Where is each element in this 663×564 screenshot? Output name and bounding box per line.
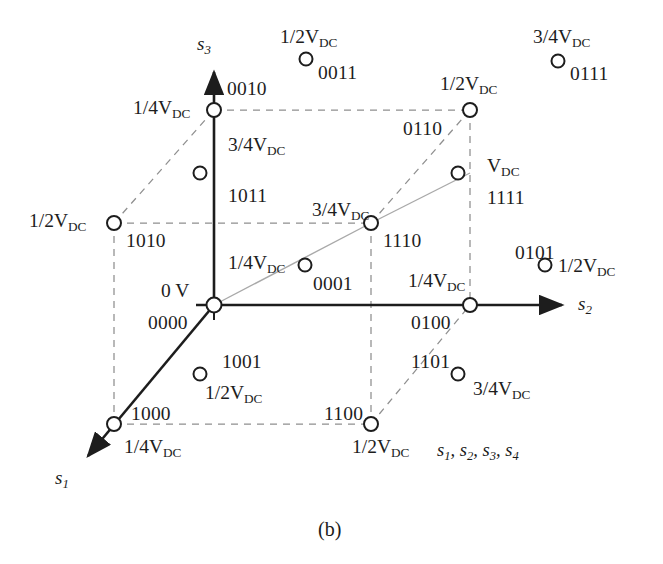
v-1001: V <box>230 382 244 403</box>
node-1000 <box>107 417 121 431</box>
legend-comma-1: , <box>451 440 460 460</box>
node-1111 <box>452 167 465 180</box>
v-0110: V <box>465 73 479 94</box>
voltage-label-1111: VDC <box>487 156 520 178</box>
code-label-0000: 0000 <box>148 313 188 333</box>
v-1110: V <box>337 199 351 220</box>
voltage-label-1010: 1/2VDC <box>29 211 86 233</box>
axis-s1-sub: 1 <box>62 476 68 491</box>
voltage-label-1000: 1/4VDC <box>124 437 181 459</box>
frac-1110: 3/4 <box>312 199 337 220</box>
dc-1011: DC <box>267 143 285 158</box>
voltage-label-0011: 1/2VDC <box>280 27 337 49</box>
dc-1110: DC <box>351 208 369 223</box>
frac-0011: 1/2 <box>280 26 305 47</box>
voltage-label-0010: 1/4VDC <box>133 98 190 120</box>
frac-1101: 3/4 <box>473 378 498 399</box>
axis-label-s2: s2 <box>578 294 592 317</box>
code-label-0100: 0100 <box>411 313 451 333</box>
v-0111: V <box>558 26 572 47</box>
frac-0010: 1/4 <box>133 97 158 118</box>
voltage-label-0110: 1/2VDC <box>440 74 497 96</box>
node-1010 <box>107 216 121 230</box>
frac-0111: 3/4 <box>533 26 558 47</box>
dc-0011: DC <box>319 35 337 50</box>
code-label-1011: 1011 <box>228 186 267 206</box>
node-0100 <box>463 298 477 312</box>
v-0001: V <box>253 252 267 273</box>
code-label-1100: 1100 <box>324 404 363 424</box>
voltage-label-0001: 1/4VDC <box>228 253 285 275</box>
node-0001 <box>299 259 312 272</box>
node-1001 <box>194 368 207 381</box>
node-0111 <box>552 55 565 68</box>
dc-0001: DC <box>267 261 285 276</box>
node-1101 <box>452 368 465 381</box>
dc-1000: DC <box>163 445 181 460</box>
code-label-1111: 1111 <box>487 188 525 208</box>
voltage-label-1110: 3/4VDC <box>312 200 369 222</box>
voltage-label-1100: 1/2VDC <box>352 437 409 459</box>
axis-label-s3: s3 <box>197 34 211 57</box>
dc-0100: DC <box>447 279 465 294</box>
dc-1101: DC <box>512 387 530 402</box>
dc-1001: DC <box>244 391 262 406</box>
dc-1010: DC <box>68 219 86 234</box>
code-label-0101: 0101 <box>515 243 555 263</box>
frac-0100: 1/4 <box>408 270 433 291</box>
dc-1100: DC <box>391 445 409 460</box>
v-1011: V <box>253 134 267 155</box>
node-1011 <box>194 167 207 180</box>
frac-0001: 1/4 <box>228 252 253 273</box>
legend-comma-3: , <box>496 440 505 460</box>
voltage-label-1001: 1/2VDC <box>205 383 262 405</box>
voltage-label-1101: 3/4VDC <box>473 379 530 401</box>
v-1111: V <box>487 155 501 176</box>
code-label-1110: 1110 <box>383 231 421 251</box>
node-0011 <box>300 53 313 66</box>
v-1000: V <box>149 436 163 457</box>
code-label-0110: 0110 <box>403 119 442 139</box>
axis-s2-sub: 2 <box>585 302 591 317</box>
v-1100: V <box>377 436 391 457</box>
voltage-label-0000: 0 V <box>161 281 189 301</box>
v-1101: V <box>498 378 512 399</box>
voltage-label-0111: 3/4VDC <box>533 27 590 49</box>
voltage-label-0100: 1/4VDC <box>408 271 465 293</box>
code-label-1000: 1000 <box>131 404 171 424</box>
v-0011: V <box>305 26 319 47</box>
v-0010: V <box>158 97 172 118</box>
code-label-1010: 1010 <box>126 231 166 251</box>
legend-s2-letter: s <box>460 440 467 460</box>
axis-label-s1: s1 <box>55 468 69 491</box>
frac-1011: 3/4 <box>228 134 253 155</box>
frac-0101: 1/2 <box>558 255 583 276</box>
legend-s3-letter: s <box>483 440 490 460</box>
code-label-0111: 0111 <box>570 64 608 84</box>
legend-comma-2: , <box>473 440 482 460</box>
node-0110 <box>463 103 477 117</box>
legend-s4-sub: 4 <box>512 449 518 463</box>
figure-caption: (b) <box>318 518 341 541</box>
dc-0101: DC <box>597 264 615 279</box>
v-0100: V <box>433 270 447 291</box>
frac-0110: 1/2 <box>440 73 465 94</box>
code-label-0001: 0001 <box>313 274 353 294</box>
axis-s3-sub: 3 <box>204 42 210 57</box>
dc-0010: DC <box>172 106 190 121</box>
code-label-1001: 1001 <box>222 352 262 372</box>
voltage-label-0101: 1/2VDC <box>558 256 615 278</box>
dc-1111: DC <box>501 164 519 179</box>
code-label-0011: 0011 <box>318 63 357 83</box>
node-0000 <box>207 298 222 313</box>
dashed-cube-edges <box>114 110 470 424</box>
dc-0110: DC <box>479 82 497 97</box>
dc-0111: DC <box>572 35 590 50</box>
frac-1000: 1/4 <box>124 436 149 457</box>
node-1100 <box>364 417 378 431</box>
frac-1001: 1/2 <box>205 382 230 403</box>
code-label-0010: 0010 <box>227 79 267 99</box>
v-0101: V <box>583 255 597 276</box>
node-0010 <box>207 103 221 117</box>
legend-switch-order: s1, s2, s3, s4 <box>437 440 519 464</box>
